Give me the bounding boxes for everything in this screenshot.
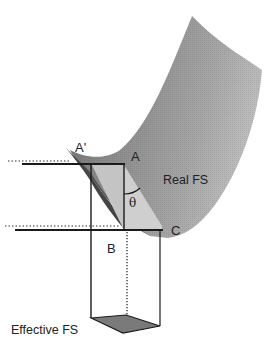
point-a-prime-label: A' — [75, 141, 86, 154]
theta-label: θ — [129, 197, 136, 209]
effective-fs-label: Effective FS — [11, 324, 78, 337]
real-fs-label: Real FS — [163, 174, 208, 187]
real-fs-surface — [66, 16, 262, 238]
point-a-label: A — [131, 150, 140, 163]
fermi-surface-diagram — [0, 0, 274, 345]
point-c-label: C — [171, 224, 180, 237]
point-b-label: B — [107, 242, 116, 255]
effective-fs-base — [91, 315, 160, 333]
figure: A' A θ B C Real FS Effective FS — [0, 0, 274, 345]
